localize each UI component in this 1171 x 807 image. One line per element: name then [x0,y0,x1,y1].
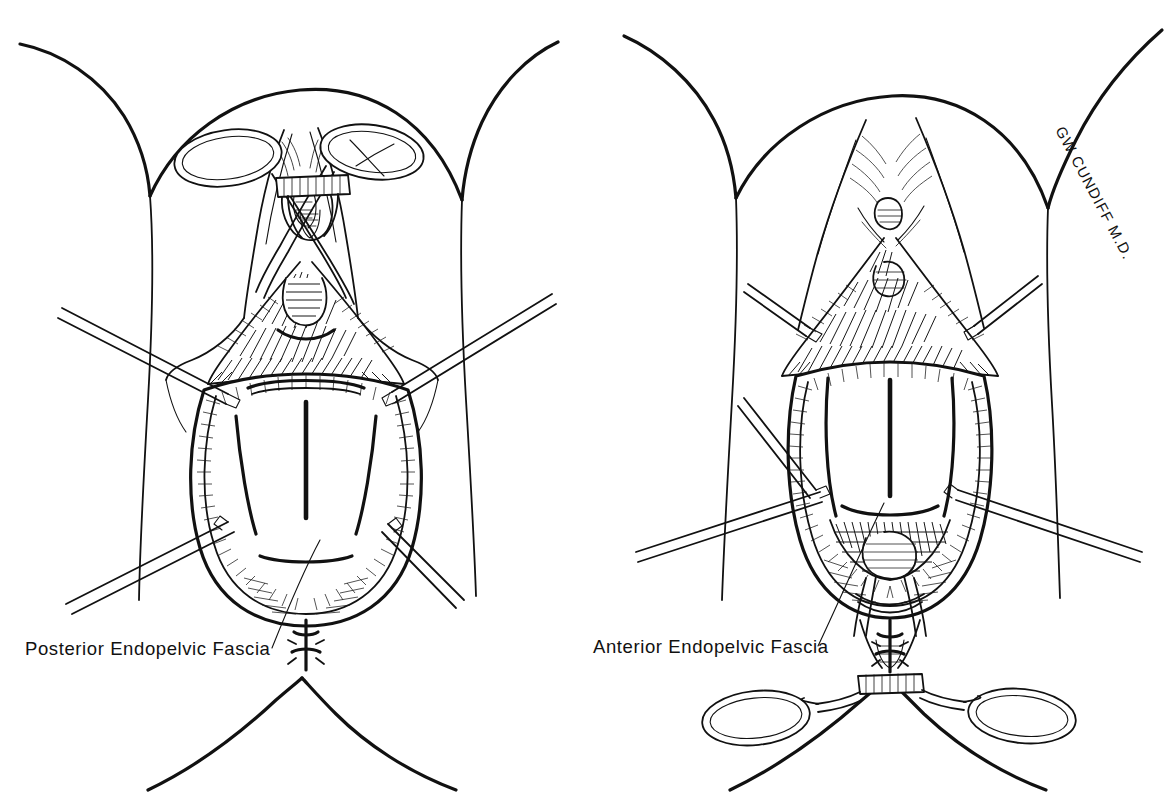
anterior-label-text: Anterior Endopelvic Fascia [593,636,829,657]
vaginal-vault-posterior [191,374,422,626]
canvas-background [0,0,1171,807]
illustration-svg: Posterior Endopelvic Fascia [0,0,1171,807]
illustration-canvas: Posterior Endopelvic Fascia [0,0,1171,807]
urethral-meatus [875,198,902,229]
posterior-label-text: Posterior Endopelvic Fascia [25,638,271,659]
